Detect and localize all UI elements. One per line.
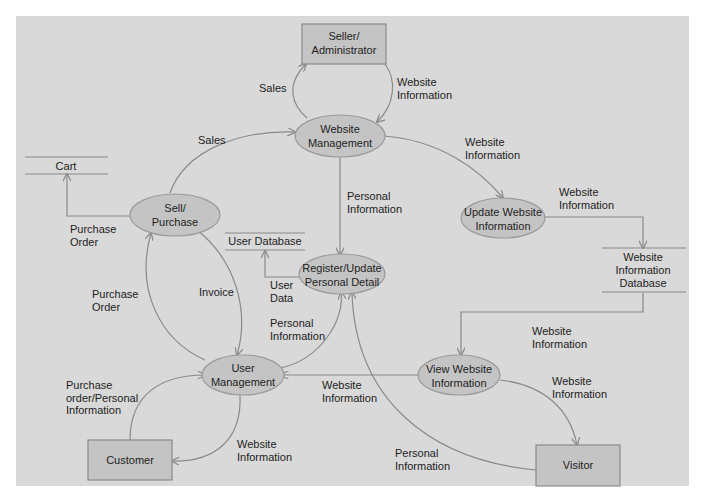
data-flow-diagram: Seller/ Administrator Customer Visitor W… — [0, 0, 704, 494]
process-label: Sell/ — [164, 202, 186, 214]
flow-purchase-personal-customer — [130, 375, 205, 440]
flow-label-purchase-order-personal-information: order/Personal — [66, 392, 138, 404]
flow-webinfo-user-to-customer — [172, 395, 240, 461]
flow-user-data-to-userdb — [265, 251, 300, 277]
flow-label-website-information: Website — [397, 76, 437, 88]
process-register-update-personal-detail[interactable]: Register/Update Personal Detail — [299, 254, 385, 294]
process-view-website-information[interactable]: View Website Information — [418, 355, 500, 395]
flow-label-personal-information: Information — [270, 330, 325, 342]
entity-label: Seller/ — [328, 30, 360, 42]
flow-label-website-information: Information — [322, 392, 377, 404]
flow-label-user-data: Data — [270, 292, 294, 304]
flow-label-personal-information: Personal — [395, 447, 438, 459]
process-label: Update Website — [464, 206, 542, 218]
process-label: Register/Update — [302, 262, 382, 274]
process-label: View Website — [426, 363, 492, 375]
flow-label-website-information: Website — [532, 325, 572, 337]
flow-sales-sell-to-mgmt — [170, 132, 295, 193]
flow-label-website-information: Website — [322, 379, 362, 391]
flow-label-website-information: Website — [559, 186, 599, 198]
process-website-management[interactable]: Website Management — [295, 115, 385, 157]
datastore-label: Information — [615, 264, 670, 276]
process-label: Management — [308, 137, 372, 149]
entity-label: Administrator — [312, 44, 377, 56]
flow-label-website-information: Website — [465, 136, 505, 148]
flow-label-purchase-order: Order — [70, 236, 98, 248]
process-label: User — [231, 362, 255, 374]
datastore-user-database[interactable]: User Database — [225, 233, 305, 250]
flow-label-personal-information: Information — [347, 203, 402, 215]
flow-label-website-information: Website — [552, 375, 592, 387]
flow-label-purchase-order: Order — [92, 301, 120, 313]
flow-label-personal-information: Information — [395, 460, 450, 472]
flow-label-website-information: Information — [397, 89, 452, 101]
entity-label: Customer — [106, 454, 154, 466]
flow-purchase-order-to-cart — [67, 174, 130, 216]
datastore-cart[interactable]: Cart — [25, 157, 108, 174]
flow-label-user-data: User — [270, 279, 294, 291]
process-update-website-information[interactable]: Update Website Information — [461, 198, 545, 238]
datastore-label: Database — [619, 277, 666, 289]
flow-sales-to-seller — [293, 64, 307, 118]
process-label: Personal Detail — [305, 276, 380, 288]
flow-label-website-information: Information — [552, 388, 607, 400]
flow-label-invoice: Invoice — [199, 286, 234, 298]
flow-label-personal-information: Personal — [270, 317, 313, 329]
process-user-management[interactable]: User Management — [202, 355, 284, 395]
datastore-label: User Database — [228, 235, 301, 247]
entity-label: Visitor — [563, 459, 594, 471]
flow-label-purchase-order: Purchase — [70, 223, 116, 235]
process-label: Information — [475, 220, 530, 232]
process-label: Purchase — [152, 216, 198, 228]
flow-label-sales: Sales — [198, 134, 226, 146]
datastore-website-information-database[interactable]: Website Information Database — [602, 248, 686, 292]
flow-label-personal-information: Personal — [347, 190, 390, 202]
process-label: Information — [431, 377, 486, 389]
entity-visitor[interactable]: Visitor — [536, 445, 620, 486]
datastore-label: Cart — [56, 160, 77, 172]
flow-purchase-order-user-to-sell — [146, 233, 205, 360]
flow-label-website-information: Information — [465, 149, 520, 161]
datastore-label: Website — [623, 251, 663, 263]
flow-label-website-information: Website — [237, 438, 277, 450]
process-sell-purchase[interactable]: Sell/ Purchase — [130, 194, 220, 236]
flow-label-purchase-order-personal-information: Information — [66, 404, 121, 416]
flow-label-website-information: Information — [532, 338, 587, 350]
flow-label-website-information: Information — [559, 199, 614, 211]
entity-customer[interactable]: Customer — [88, 440, 172, 480]
flow-label-purchase-order: Purchase — [92, 288, 138, 300]
entity-seller-administrator[interactable]: Seller/ Administrator — [302, 24, 386, 64]
flow-label-website-information: Information — [237, 451, 292, 463]
process-label: Management — [211, 376, 275, 388]
flow-label-sales: Sales — [259, 82, 287, 94]
process-label: Website — [320, 123, 360, 135]
flow-webinfo-seller-to-mgmt — [377, 64, 393, 122]
flow-label-purchase-order-personal-information: Purchase — [66, 379, 112, 391]
flow-webinfo-update-to-db — [544, 217, 643, 248]
